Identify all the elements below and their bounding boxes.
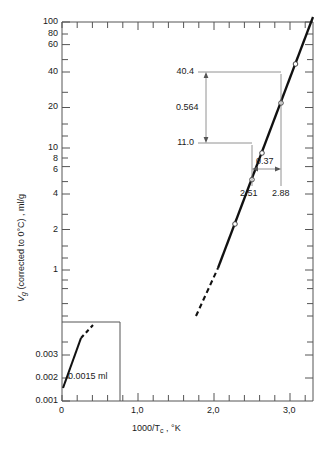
y-tick-label-6: 6 [10, 165, 58, 174]
x-tick-label-0: 0 [59, 406, 64, 415]
x-axis-title-pre: 1000/T [132, 423, 160, 433]
y-tick-label-0003: 0.003 [4, 350, 58, 359]
annotation-log-delta: 0.564 [176, 103, 199, 112]
y-tick-label-40: 40 [10, 67, 58, 76]
y-axis-title-rest: (corrected to 0°C) , ml/g [16, 194, 26, 292]
y-tick-label-10: 10 [10, 143, 58, 152]
y-axis-title-symbol: V [16, 296, 26, 302]
annotation-y-upper-value: 40.4 [148, 67, 194, 76]
y-axis-title-subscript: g [20, 292, 27, 296]
annotation-x-delta: 0.37 [256, 157, 274, 166]
y-tick-label-20: 20 [10, 102, 58, 111]
y-tick-label-0002: 0.002 [4, 373, 58, 382]
y-tick-label-60: 60 [10, 40, 58, 49]
y-tick-label-0001: 0.001 [4, 396, 58, 405]
annotation-y-lower-value: 11.0 [148, 138, 194, 147]
y-axis-title: Vg (corrected to 0°C) , ml/g [16, 194, 27, 302]
y-tick-label-100: 100 [10, 17, 58, 26]
x-axis-title: 1000/Tc , °K [132, 424, 181, 434]
x-axis-title-post: , °K [164, 423, 181, 433]
data-point [233, 222, 238, 227]
annotation-inset-note: 0.0015 ml [68, 372, 108, 381]
x-tick-label-2: 2,0 [207, 406, 220, 415]
y-tick-label-80: 80 [10, 29, 58, 38]
x-tick-label-3: 3,0 [283, 406, 296, 415]
y-tick-label-8: 8 [10, 154, 58, 163]
annotation-x-upper-value: 2.88 [272, 189, 290, 198]
data-point [260, 151, 265, 156]
data-point [293, 62, 298, 67]
annotation-x-lower-value: 2.51 [240, 189, 258, 198]
x-tick-label-1: 1,0 [131, 406, 144, 415]
